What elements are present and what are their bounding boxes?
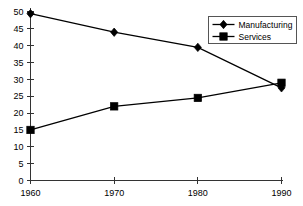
y-axis-tick-label: 25	[13, 91, 23, 101]
square-marker-icon	[27, 126, 34, 133]
legend-item-manufacturing[interactable]: Manufacturing	[213, 20, 293, 30]
x-axis-tick-label: 1990	[271, 188, 291, 198]
diamond-marker-icon	[27, 9, 34, 17]
y-axis-tick-label: 45	[13, 24, 23, 34]
y-axis-tick-label: 10	[13, 142, 23, 152]
x-axis-tick-label: 1960	[20, 188, 40, 198]
legend-item-services[interactable]: Services	[213, 32, 272, 42]
x-axis: 1960197019801990	[20, 177, 291, 198]
y-axis: 05101520253035404550	[13, 7, 34, 186]
y-axis-tick-label: 30	[13, 75, 23, 85]
y-axis-tick-label: 50	[13, 7, 23, 17]
series-services	[27, 79, 285, 134]
chart-canvas: 05101520253035404550 1960197019801990 Ma…	[0, 0, 303, 206]
square-marker-icon	[220, 33, 227, 40]
y-axis-tick-label: 35	[13, 58, 23, 68]
x-axis-tick-label: 1980	[188, 188, 208, 198]
line-chart-figure: 05101520253035404550 1960197019801990 Ma…	[0, 0, 303, 206]
y-axis-tick-label: 40	[13, 41, 23, 51]
y-axis-tick-label: 15	[13, 125, 23, 135]
y-axis-tick-label: 5	[18, 159, 23, 169]
x-axis-tick-label: 1970	[104, 188, 124, 198]
diamond-marker-icon	[194, 43, 201, 51]
y-axis-tick-label: 20	[13, 108, 23, 118]
legend-item-label: Services	[239, 32, 272, 42]
chart-legend: ManufacturingServices	[209, 17, 297, 44]
square-marker-icon	[110, 103, 117, 110]
series-line-services	[31, 83, 282, 130]
square-marker-icon	[278, 79, 285, 86]
y-axis-tick-label: 0	[18, 176, 23, 186]
diamond-marker-icon	[111, 28, 118, 36]
legend-item-label: Manufacturing	[239, 20, 293, 30]
square-marker-icon	[194, 94, 201, 101]
